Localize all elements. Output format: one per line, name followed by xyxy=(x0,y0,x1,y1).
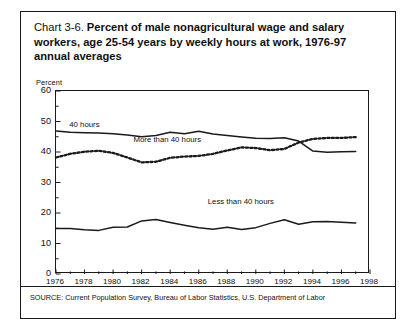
series-line xyxy=(56,131,356,152)
y-tick-label: 20 xyxy=(29,207,51,217)
plot-svg xyxy=(56,91,370,274)
x-tick-label: 1976 xyxy=(46,277,64,286)
y-tick-label: 10 xyxy=(29,238,51,248)
x-tick-label: 1992 xyxy=(274,277,292,286)
x-tick-label: 1994 xyxy=(303,277,321,286)
x-tick-label: 1980 xyxy=(103,277,121,286)
source-separator xyxy=(21,286,395,287)
x-tick-label: 1990 xyxy=(246,277,264,286)
x-tick-label: 1988 xyxy=(217,277,235,286)
series-label: More than 40 hours xyxy=(134,135,202,144)
x-tick-label: 1986 xyxy=(189,277,207,286)
chart-figure: Chart 3-6. Percent of male nonagricultur… xyxy=(0,0,416,330)
chart-number: Chart 3-6. xyxy=(34,21,84,33)
source-note: SOURCE: Current Population Survey, Burea… xyxy=(30,293,325,302)
y-tick-label: 40 xyxy=(29,146,51,156)
y-tick-label: 60 xyxy=(29,85,51,95)
x-tick-label: 1996 xyxy=(331,277,349,286)
series-label: Less than 40 hours xyxy=(208,197,274,206)
y-tick-label: 50 xyxy=(29,116,51,126)
x-tick-label: 1982 xyxy=(132,277,150,286)
x-tick-label: 1984 xyxy=(160,277,178,286)
x-tick-label: 1998 xyxy=(360,277,378,286)
y-tick-label: 30 xyxy=(29,177,51,187)
series-line xyxy=(56,219,356,230)
plot-area xyxy=(55,90,369,273)
series-label: 40 hours xyxy=(69,120,99,129)
figure-title: Chart 3-6. Percent of male nonagricultur… xyxy=(34,20,376,64)
figure-frame: Chart 3-6. Percent of male nonagricultur… xyxy=(20,11,396,319)
x-tick-label: 1978 xyxy=(75,277,93,286)
